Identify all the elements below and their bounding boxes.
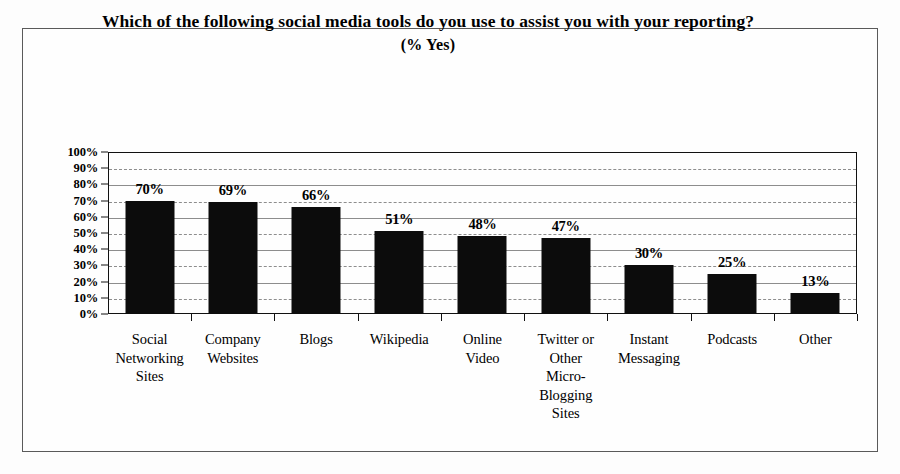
x-tick-mark <box>607 314 608 321</box>
x-axis-category-line: Websites <box>191 349 274 368</box>
y-tick-mark <box>101 233 108 234</box>
y-tick-mark <box>101 249 108 250</box>
gridline <box>109 218 856 219</box>
y-tick-label: 80% <box>74 177 98 192</box>
y-tick-mark <box>101 184 108 185</box>
gridline <box>109 202 856 203</box>
y-tick-mark <box>101 297 108 298</box>
x-axis-category-line: Company <box>191 330 274 349</box>
chart-title: Which of the following social media tool… <box>60 10 796 33</box>
x-axis-category-label: Wikipedia <box>358 330 441 349</box>
y-tick-mark <box>101 281 108 282</box>
x-axis-category-label: Twitter orOtherMicro-BloggingSites <box>524 330 607 423</box>
chart-subtitle: (% Yes) <box>60 36 796 54</box>
x-axis-category-line: Podcasts <box>691 330 774 349</box>
x-tick-mark <box>274 314 275 321</box>
x-axis-category-line: Sites <box>524 404 607 423</box>
x-axis-category-line: Blogs <box>274 330 357 349</box>
x-tick-mark <box>524 314 525 321</box>
y-tick-mark <box>101 314 108 315</box>
x-axis-category-line: Other <box>524 349 607 368</box>
x-axis-category-line: Other <box>774 330 857 349</box>
x-axis-category-line: Wikipedia <box>358 330 441 349</box>
y-tick-label: 30% <box>74 258 98 273</box>
y-tick-label: 70% <box>74 193 98 208</box>
x-axis-category-line: Twitter or <box>524 330 607 349</box>
x-tick-mark <box>441 314 442 321</box>
y-tick-label: 60% <box>74 209 98 224</box>
x-tick-mark <box>691 314 692 321</box>
gridline <box>109 234 856 235</box>
x-axis-category-label: Other <box>774 330 857 349</box>
x-tick-mark <box>857 314 858 321</box>
y-tick-mark <box>101 216 108 217</box>
x-tick-mark <box>774 314 775 321</box>
x-axis-category-label: InstantMessaging <box>607 330 690 367</box>
x-axis-category-line: Networking <box>108 349 191 368</box>
y-tick-mark <box>101 152 108 153</box>
gridline <box>109 266 856 267</box>
x-axis-labels: SocialNetworkingSitesCompanyWebsitesBlog… <box>108 330 857 450</box>
gridline <box>109 250 856 251</box>
x-axis-category-line: Social <box>108 330 191 349</box>
gridlines <box>109 153 856 313</box>
plot-area <box>108 152 857 314</box>
x-axis-category-line: Blogging <box>524 386 607 405</box>
y-tick-label: 90% <box>74 161 98 176</box>
gridline <box>109 283 856 284</box>
title-block: Which of the following social media tool… <box>60 10 796 54</box>
x-axis-category-label: Blogs <box>274 330 357 349</box>
x-tick-mark <box>358 314 359 321</box>
x-axis-category-line: Video <box>441 349 524 368</box>
y-tick-label: 10% <box>74 290 98 305</box>
x-axis-category-label: Podcasts <box>691 330 774 349</box>
x-axis-category-line: Messaging <box>607 349 690 368</box>
x-axis-category-line: Online <box>441 330 524 349</box>
y-tick-label: 0% <box>80 307 98 322</box>
x-tick-mark <box>191 314 192 321</box>
x-axis-category-line: Micro- <box>524 367 607 386</box>
y-tick-label: 40% <box>74 242 98 257</box>
chart-page: Which of the following social media tool… <box>0 0 900 474</box>
gridline <box>109 299 856 300</box>
x-axis-category-label: OnlineVideo <box>441 330 524 367</box>
y-tick-label: 50% <box>74 226 98 241</box>
y-tick-mark <box>101 200 108 201</box>
y-axis: 0%10%20%30%40%50%60%70%80%90%100% <box>50 146 108 320</box>
x-axis-category-line: Sites <box>108 367 191 386</box>
x-axis-category-label: CompanyWebsites <box>191 330 274 367</box>
x-axis-ticks <box>108 314 857 322</box>
gridline <box>109 185 856 186</box>
y-tick-label: 100% <box>68 145 98 160</box>
y-tick-label: 20% <box>74 274 98 289</box>
x-axis-category-label: SocialNetworkingSites <box>108 330 191 386</box>
gridline <box>109 169 856 170</box>
x-axis-category-line: Instant <box>607 330 690 349</box>
y-tick-mark <box>101 265 108 266</box>
y-tick-mark <box>101 168 108 169</box>
